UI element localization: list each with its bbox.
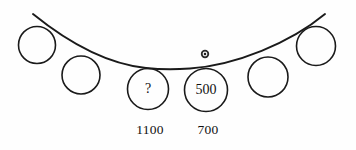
circle-outline-5[interactable] [248,57,288,97]
circle-group-6[interactable] [297,27,336,66]
value-label-left: 1100 [136,122,164,137]
circle-group-2[interactable] [62,56,100,94]
circle-group-unknown[interactable]: ? [128,69,169,110]
value-label-right: 700 [197,122,218,137]
figure-container: ? 500 1100 700 [0,0,356,150]
figure-canvas: ? 500 1100 700 [0,0,356,150]
circle-outline-6[interactable] [297,27,336,66]
circle-group-1[interactable] [19,27,56,64]
circle-group-500[interactable]: 500 [185,69,228,112]
circle-group-5[interactable] [248,57,288,97]
circle-outline-1[interactable] [19,27,56,64]
curve-point-marker-core [204,53,206,55]
circle-label-500: 500 [196,82,217,97]
circle-label-unknown: ? [145,81,151,96]
curve-point-marker [201,50,209,58]
circle-outline-2[interactable] [62,56,100,94]
